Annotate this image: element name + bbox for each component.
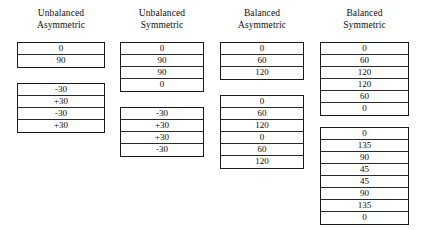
ply-row: 60 bbox=[321, 55, 408, 67]
ply-row: 0 bbox=[321, 128, 408, 140]
column-header-balanced-symmetric: BalancedSymmetric bbox=[320, 8, 409, 31]
laminate-stack: 060120060120 bbox=[220, 95, 304, 169]
ply-row: -30 bbox=[18, 84, 104, 96]
column-header-line1: Unbalanced bbox=[120, 8, 204, 20]
column-header-line2: Asymmetric bbox=[220, 20, 304, 32]
ply-row: -30 bbox=[121, 144, 203, 156]
ply-row: 90 bbox=[321, 152, 408, 164]
column-header-line2: Symmetric bbox=[120, 20, 204, 32]
ply-row: 60 bbox=[221, 55, 303, 67]
laminate-stacking-figure: UnbalancedAsymmetric090-30+30-30+30Unbal… bbox=[0, 0, 426, 230]
ply-row: 90 bbox=[321, 188, 408, 200]
column-header-unbalanced-asymmetric: UnbalancedAsymmetric bbox=[17, 8, 105, 31]
column-header-line1: Unbalanced bbox=[17, 8, 105, 20]
column-balanced-asymmetric: BalancedAsymmetric060120060120060120 bbox=[220, 0, 304, 230]
column-header-balanced-asymmetric: BalancedAsymmetric bbox=[220, 8, 304, 31]
column-header-line1: Balanced bbox=[220, 8, 304, 20]
laminate-stack: 0135904545901350 bbox=[320, 127, 409, 225]
ply-row: 120 bbox=[321, 67, 408, 79]
ply-row: 45 bbox=[321, 176, 408, 188]
ply-row: 0 bbox=[221, 96, 303, 108]
laminate-stack: 060120 bbox=[220, 42, 304, 80]
column-header-line1: Balanced bbox=[320, 8, 409, 20]
column-balanced-symmetric: BalancedSymmetric06012012060001359045459… bbox=[320, 0, 409, 230]
ply-row: 90 bbox=[121, 67, 203, 79]
ply-row: 90 bbox=[121, 55, 203, 67]
ply-row: 0 bbox=[221, 43, 303, 55]
ply-row: 0 bbox=[121, 43, 203, 55]
ply-row: 120 bbox=[221, 67, 303, 79]
column-unbalanced-symmetric: UnbalancedSymmetric090900-30+30+30-30 bbox=[120, 0, 204, 230]
ply-row: 135 bbox=[321, 200, 408, 212]
column-unbalanced-asymmetric: UnbalancedAsymmetric090-30+30-30+30 bbox=[17, 0, 105, 230]
laminate-stack: -30+30+30-30 bbox=[120, 107, 204, 157]
ply-row: 0 bbox=[321, 43, 408, 55]
column-header-line2: Symmetric bbox=[320, 20, 409, 32]
ply-row: 90 bbox=[18, 55, 104, 67]
laminate-stack: 060120120600 bbox=[320, 42, 409, 116]
ply-row: +30 bbox=[18, 120, 104, 132]
ply-row: 120 bbox=[221, 120, 303, 132]
laminate-stack: -30+30-30+30 bbox=[17, 83, 105, 133]
ply-row: 60 bbox=[221, 144, 303, 156]
ply-row: 0 bbox=[321, 103, 408, 115]
ply-row: +30 bbox=[121, 120, 203, 132]
ply-row: 120 bbox=[321, 79, 408, 91]
ply-row: 0 bbox=[321, 212, 408, 224]
ply-row: 0 bbox=[18, 43, 104, 55]
ply-row: -30 bbox=[18, 108, 104, 120]
laminate-stack: 090900 bbox=[120, 42, 204, 92]
column-header-unbalanced-symmetric: UnbalancedSymmetric bbox=[120, 8, 204, 31]
laminate-stack: 090 bbox=[17, 42, 105, 68]
ply-row: -30 bbox=[121, 108, 203, 120]
ply-row: +30 bbox=[18, 96, 104, 108]
ply-row: 120 bbox=[221, 156, 303, 168]
ply-row: 0 bbox=[121, 79, 203, 91]
ply-row: 60 bbox=[321, 91, 408, 103]
ply-row: 60 bbox=[221, 108, 303, 120]
ply-row: +30 bbox=[121, 132, 203, 144]
ply-row: 0 bbox=[221, 132, 303, 144]
ply-row: 45 bbox=[321, 164, 408, 176]
column-header-line2: Asymmetric bbox=[17, 20, 105, 32]
ply-row: 135 bbox=[321, 140, 408, 152]
